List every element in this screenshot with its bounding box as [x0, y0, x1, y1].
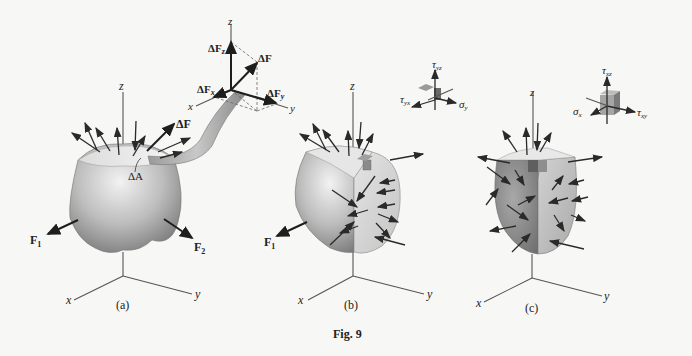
F1-arrow-b — [277, 222, 307, 236]
panel-label-c: (c) — [525, 301, 538, 315]
element-c-left — [528, 160, 538, 172]
panel-a: z ΔF ΔA F1 F2 x y (a) — [30, 79, 245, 312]
tau-yx-arrow — [412, 100, 435, 107]
delta-F-label: ΔF — [258, 52, 272, 64]
x-axis-label-components: x — [187, 100, 193, 112]
y-axis-label-a: y — [194, 287, 201, 301]
F1-label-b: F1 — [264, 235, 275, 251]
delta-Fx-label: ΔFx — [197, 83, 215, 97]
panel-b: z F1 x y — [264, 58, 468, 312]
x-axis-b — [308, 276, 353, 300]
delta-Fy-label: ΔFy — [267, 87, 285, 101]
x-axis-label-a: x — [65, 293, 72, 307]
element-face — [614, 91, 620, 115]
panel-c: z x y (c) — [475, 64, 648, 315]
tau-xy-label: τxy — [637, 106, 648, 120]
tau-yz-label: τyz — [432, 58, 442, 72]
delta-Fz-label: ΔFz — [208, 42, 226, 56]
figure-caption: Fig. 9 — [333, 327, 362, 341]
dashed-guide — [257, 104, 276, 111]
x-axis-label-c: x — [475, 296, 482, 310]
force-arrow — [503, 131, 517, 152]
F1-arrow-a — [48, 220, 78, 234]
y-axis-label-components: y — [289, 102, 295, 114]
force-arrow — [390, 154, 423, 160]
z-axis-label-components: z — [227, 15, 233, 27]
F2-label-a: F2 — [194, 240, 205, 256]
force-arrow — [359, 122, 361, 148]
delta-Fx-arrow — [214, 90, 231, 97]
F1-label-a: F1 — [30, 233, 41, 249]
z-axis-label-b: z — [349, 79, 355, 93]
stress-element-b: τyz τyx σy — [400, 58, 468, 112]
figure-canvas: z ΔF ΔA F1 F2 x y (a) z — [0, 0, 692, 356]
force-arrow — [537, 123, 538, 150]
delta-A-label: ΔA — [128, 170, 143, 182]
x-axis-a — [74, 276, 123, 300]
y-axis-a — [123, 276, 192, 294]
dashed-guide — [231, 42, 257, 62]
element-face — [418, 84, 434, 91]
y-axis-b — [353, 276, 424, 294]
tau-yx-label: τyx — [400, 93, 411, 107]
delta-F-arrow — [231, 63, 257, 90]
x-axis-c — [484, 278, 532, 302]
panel-label-b: (b) — [344, 298, 358, 312]
delta-F-label-a: ΔF — [176, 117, 191, 131]
sigma-y-label: σy — [459, 98, 468, 112]
z-axis-label-c: z — [529, 86, 535, 98]
y-axis-label-b: y — [426, 287, 433, 301]
panel-label-a: (a) — [116, 298, 129, 312]
top-face-c — [497, 148, 575, 160]
force-arrow — [158, 138, 190, 152]
z-axis-label-a: z — [118, 79, 124, 93]
element-b — [363, 160, 371, 170]
sigma-x-label: σx — [573, 105, 582, 119]
element-c-right — [538, 160, 547, 172]
force-arrow — [72, 133, 100, 152]
y-axis-label-c: y — [603, 289, 610, 303]
y-axis-c — [532, 278, 602, 296]
tau-xz-label: τxz — [602, 64, 612, 78]
x-axis-label-b: x — [297, 293, 304, 307]
stress-element-c: τxz σx τxy — [573, 64, 648, 124]
sigma-y-arrow — [435, 98, 456, 103]
